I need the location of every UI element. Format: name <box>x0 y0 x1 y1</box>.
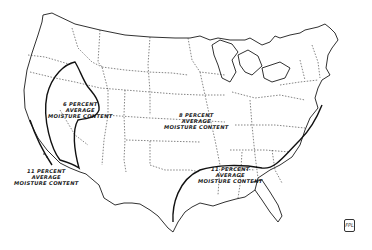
coast-zone-label-line3: MOISTURE CONTENT <box>14 180 79 186</box>
southeast-zone-label: 11 PERCENT AVERAGE MOISTURE CONTENT <box>198 166 263 185</box>
fpl-stamp-icon: FPL <box>344 219 355 232</box>
southeast-zone-label-line3: MOISTURE CONTENT <box>198 178 263 184</box>
moisture-zone-boundaries <box>30 62 322 222</box>
central-zone-label-line3: MOISTURE CONTENT <box>164 124 229 130</box>
west-zone-label: 6 PERCENT AVERAGE MOISTURE CONTENT <box>48 101 113 120</box>
west-zone-label-line3: MOISTURE CONTENT <box>48 113 113 119</box>
coast-zone-label: 11 PERCENT AVERAGE MOISTURE CONTENT <box>14 168 79 187</box>
central-zone-label: 8 PERCENT AVERAGE MOISTURE CONTENT <box>164 112 229 131</box>
